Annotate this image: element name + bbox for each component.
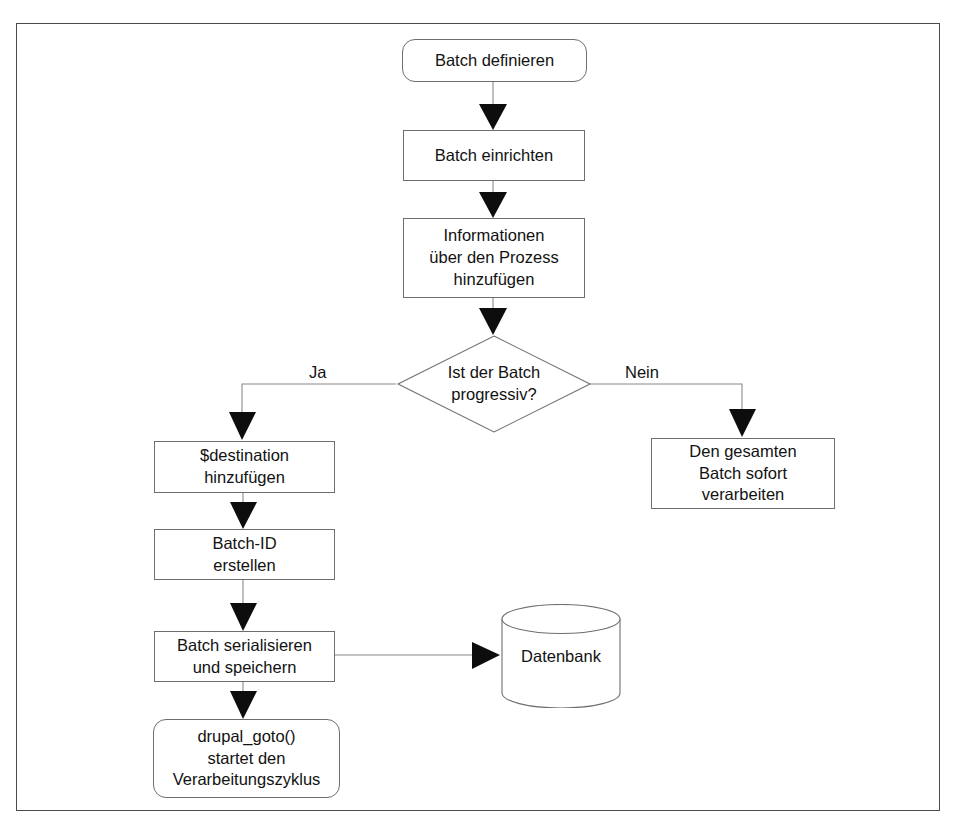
node-label: Batch-ID erstellen — [207, 533, 281, 577]
arrowhead-e6 — [230, 502, 257, 529]
edge-label-ja: Ja — [309, 363, 326, 382]
connector-line-e5 — [590, 384, 742, 412]
diamond-shape — [397, 335, 591, 433]
node-batch-einrichten[interactable]: Batch einrichten — [403, 130, 585, 181]
node-label: drupal_goto() startet den Verarbeitungsz… — [168, 726, 326, 791]
node-label: Batch definieren — [430, 50, 559, 72]
database-cylinder-icon — [501, 604, 621, 708]
arrowhead-e1 — [479, 104, 507, 130]
arrowhead-e7 — [230, 603, 257, 631]
node-informationen-hinzufuegen[interactable]: Informationen über den Prozess hinzufüge… — [403, 218, 585, 298]
node-label: Batch serialisieren und speichern — [172, 635, 317, 679]
arrowhead-e2 — [479, 192, 507, 218]
diagram-canvas: Batch definieren Batch einrichten Inform… — [0, 0, 954, 831]
arrowhead-e4 — [229, 412, 256, 440]
node-label: Informationen über den Prozess hinzufüge… — [424, 225, 563, 290]
arrowhead-e5 — [729, 409, 756, 437]
node-drupal-goto[interactable]: drupal_goto() startet den Verarbeitungsz… — [153, 719, 340, 798]
node-batch-definieren[interactable]: Batch definieren — [402, 39, 587, 82]
diagram-frame: Batch definieren Batch einrichten Inform… — [16, 23, 940, 811]
node-label: Batch einrichten — [430, 145, 558, 167]
node-gesamten-batch-verarbeiten[interactable]: Den gesamten Batch sofort verarbeiten — [651, 438, 835, 509]
node-label: $destination hinzufügen — [195, 445, 294, 489]
arrowhead-e3 — [479, 308, 507, 335]
node-datenbank[interactable]: Datenbank — [501, 604, 621, 708]
edge-label-nein: Nein — [625, 363, 659, 382]
node-batch-serialisieren[interactable]: Batch serialisieren und speichern — [154, 631, 335, 682]
arrowhead-e8 — [472, 642, 500, 669]
arrowhead-e9 — [230, 691, 257, 719]
node-destination-hinzufuegen[interactable]: $destination hinzufügen — [154, 441, 335, 493]
node-ist-der-batch-progressiv[interactable]: Ist der Batch progressiv? — [397, 335, 591, 433]
node-batch-id-erstellen[interactable]: Batch-ID erstellen — [154, 529, 335, 580]
node-label: Den gesamten Batch sofort verarbeiten — [684, 441, 801, 506]
connector-line-e4 — [242, 384, 396, 414]
